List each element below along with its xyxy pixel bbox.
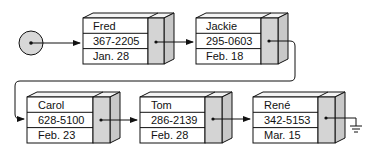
list-node-carol: Carol 628-5100 Feb. 23 <box>27 92 137 143</box>
node-phone: 295-0603 <box>206 35 253 47</box>
head-node <box>19 31 80 55</box>
node-date: Feb. 28 <box>151 129 188 141</box>
node-phone: 342-5153 <box>264 114 311 126</box>
ground-null-icon <box>350 126 362 132</box>
node-name: Carol <box>38 99 64 111</box>
list-node-tom: Tom 286-2139 Feb. 28 <box>140 92 250 143</box>
node-name: Tom <box>151 99 172 111</box>
node-name: Jackie <box>206 20 237 32</box>
node-date: Feb. 23 <box>38 129 75 141</box>
node-name: René <box>264 99 290 111</box>
node-date: Mar. 15 <box>264 129 301 141</box>
node-name: Fred <box>93 20 116 32</box>
node-phone: 628-5100 <box>38 114 85 126</box>
node-date: Jan. 28 <box>93 50 129 62</box>
list-node-rene: René 342-5153 Mar. 15 <box>253 92 356 143</box>
node-date: Feb. 18 <box>206 50 243 62</box>
list-node-fred: Fred 367-2205 Jan. 28 <box>83 13 193 64</box>
node-phone: 367-2205 <box>93 35 140 47</box>
node-phone: 286-2139 <box>151 114 198 126</box>
linked-list-diagram: Fred 367-2205 Jan. 28 Jackie 295-0603 Fe… <box>0 0 380 151</box>
